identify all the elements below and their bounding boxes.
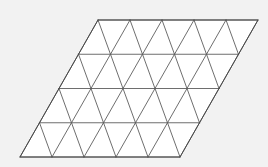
triangular-grid-figure: [0, 0, 268, 167]
